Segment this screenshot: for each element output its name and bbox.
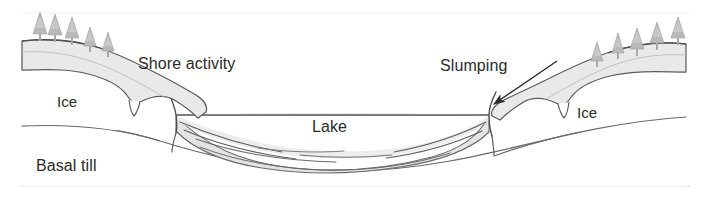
label-shore-activity: Shore activity [138,56,235,72]
label-ice-right: Ice [577,105,597,120]
conifer-tree [48,14,62,42]
lake-water-surface [176,114,489,115]
conifer-tree [33,12,47,41]
conifer-tree [671,17,685,45]
label-lake: Lake [312,119,347,135]
label-basal-till: Basal till [36,158,97,174]
label-slumping: Slumping [440,58,508,74]
diagram-canvas [0,0,707,208]
glacial-lake-cross-section-diagram: Shore activity Slumping Ice Ice Lake Bas… [0,0,707,208]
label-ice-left: Ice [57,94,77,109]
